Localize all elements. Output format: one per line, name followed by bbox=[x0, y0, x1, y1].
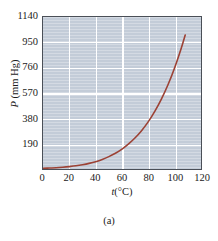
plot-area bbox=[42, 16, 202, 170]
vapor-pressure-curve bbox=[43, 35, 185, 168]
y-axis-units: (mm Hg) bbox=[9, 60, 20, 99]
x-tick-label: 120 bbox=[187, 173, 217, 184]
x-axis-units: (°C) bbox=[114, 186, 132, 197]
figure-a: 1903805707609501140 020406080100120 P (m… bbox=[0, 0, 218, 241]
y-axis-symbol: P bbox=[9, 101, 20, 107]
x-tick-label: 100 bbox=[160, 173, 190, 184]
x-tick-label: 20 bbox=[54, 173, 84, 184]
y-tick-label: 190 bbox=[0, 139, 38, 150]
x-axis-label: t(°C) bbox=[42, 186, 202, 197]
y-axis-units-spacer bbox=[9, 98, 20, 101]
y-axis-label: P (mm Hg) bbox=[9, 39, 20, 129]
x-tick-label: 40 bbox=[80, 173, 110, 184]
x-tick-label: 0 bbox=[27, 173, 57, 184]
x-tick-label: 60 bbox=[107, 173, 137, 184]
data-curve bbox=[43, 17, 201, 169]
figure-caption: (a) bbox=[0, 215, 218, 226]
y-tick-label: 1140 bbox=[0, 11, 38, 22]
x-tick-label: 80 bbox=[134, 173, 164, 184]
